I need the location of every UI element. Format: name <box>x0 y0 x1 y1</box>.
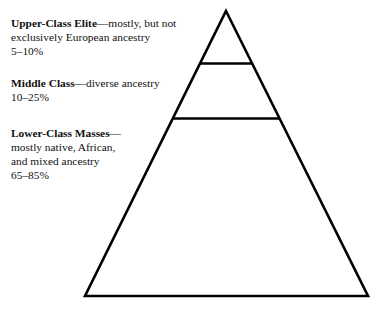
tier-upper-percent: 5–10% <box>11 45 176 59</box>
tier-middle-line-1: Middle Class—diverse ancestry <box>11 77 160 91</box>
tier-lower-line-2: mostly native, African, <box>11 141 121 155</box>
tier-middle-line1-rest: diverse ancestry <box>86 77 160 89</box>
tier-label-upper-class: Upper-Class Elite—mostly, but not exclus… <box>11 17 176 59</box>
tier-middle-heading: Middle Class <box>11 77 75 89</box>
tier-middle-percent: 10–25% <box>11 91 160 105</box>
tier-lower-line-3: and mixed ancestry <box>11 155 121 169</box>
tier-upper-dash: — <box>97 17 108 29</box>
tier-upper-line-2: exclusively European ancestry <box>11 31 176 45</box>
tier-upper-line1-rest: mostly, but not <box>108 17 176 29</box>
tier-lower-dash: — <box>110 127 121 139</box>
tier-label-middle-class: Middle Class—diverse ancestry 10–25% <box>11 77 160 105</box>
social-pyramid-diagram: Upper-Class Elite—mostly, but not exclus… <box>0 0 377 313</box>
tier-lower-heading: Lower-Class Masses <box>11 127 110 139</box>
tier-middle-dash: — <box>75 77 86 89</box>
tier-lower-percent: 65–85% <box>11 169 121 183</box>
tier-upper-line-1: Upper-Class Elite—mostly, but not <box>11 17 176 31</box>
tier-lower-line-1: Lower-Class Masses— <box>11 127 121 141</box>
tier-upper-heading: Upper-Class Elite <box>11 17 97 29</box>
tier-label-lower-class: Lower-Class Masses— mostly native, Afric… <box>11 127 121 183</box>
